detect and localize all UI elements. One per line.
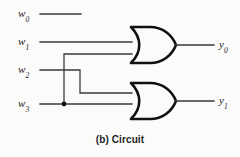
input-label-w0-subscript: 0 xyxy=(26,15,30,24)
input-label-w3: w3 xyxy=(18,98,29,112)
input-label-w1-subscript: 1 xyxy=(26,43,30,52)
output-label-y0: y0 xyxy=(219,39,228,53)
output-label-y1-subscript: 1 xyxy=(224,102,228,111)
input-label-w0-base: w xyxy=(18,7,25,19)
input-label-w2-subscript: 2 xyxy=(26,71,30,80)
input-label-w2-base: w xyxy=(18,63,25,75)
input-label-w1: w1 xyxy=(18,36,29,50)
input-label-w3-subscript: 3 xyxy=(26,105,30,114)
input-label-w2: w2 xyxy=(18,64,29,78)
gate-or-bottom[interactable] xyxy=(131,83,176,119)
circuit-figure: w0 w1 w2 w3 y0 y1 (b) Circuit xyxy=(0,0,240,157)
wire-w3-branch xyxy=(64,54,132,104)
figure-caption: (b) Circuit xyxy=(0,134,240,145)
gate-or-top[interactable] xyxy=(131,27,176,63)
junction-dot-w3 xyxy=(62,102,67,107)
input-label-w0: w0 xyxy=(18,8,29,22)
input-label-w1-base: w xyxy=(18,35,25,47)
wire-w2 xyxy=(40,70,132,93)
output-label-y0-subscript: 0 xyxy=(224,46,228,55)
output-label-y1: y1 xyxy=(219,95,228,109)
input-label-w3-base: w xyxy=(18,97,25,109)
